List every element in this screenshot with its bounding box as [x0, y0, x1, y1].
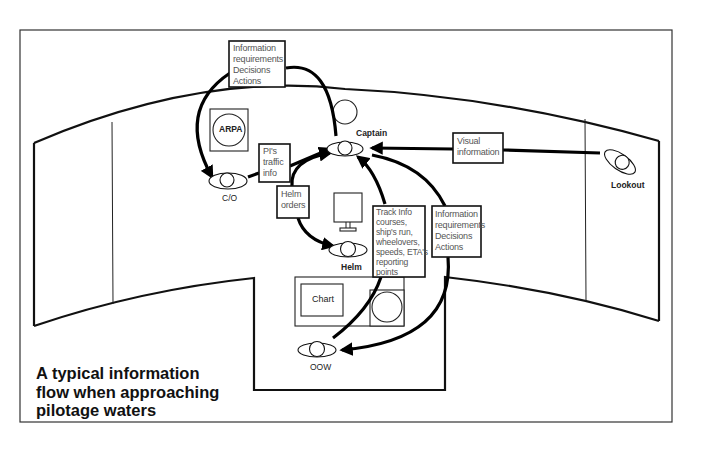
box-line: courses,	[376, 217, 428, 227]
lookout-person-icon	[601, 145, 640, 179]
bridge-outline	[34, 86, 659, 390]
pi-traffic-info-text: PI's traffic info	[263, 146, 283, 179]
co-label: C/O	[222, 193, 237, 203]
box-line: info	[263, 168, 283, 179]
chart-label: Chart	[312, 294, 334, 304]
caption-line: pilotage waters	[36, 401, 219, 420]
box-line: requirements	[435, 220, 485, 231]
box-line: Information	[233, 43, 283, 54]
box-line: traffic	[263, 157, 283, 168]
arpa-label: ARPA	[219, 124, 242, 134]
figure-caption: A typical information flow when approach…	[36, 364, 219, 420]
lookout-label: Lookout	[611, 180, 645, 190]
box-line: Decisions	[233, 65, 283, 76]
track-info-text: Track Info courses, ship's run, wheelove…	[376, 207, 428, 277]
captain-chair	[333, 100, 357, 124]
box-line: Actions	[435, 242, 485, 253]
box-line: Actions	[233, 76, 283, 87]
box-line: Visual	[457, 136, 499, 147]
box-line: Helm	[281, 189, 305, 200]
captain-label: Captain	[356, 128, 387, 138]
box-line: Decisions	[435, 231, 485, 242]
box-line: requirements	[233, 54, 283, 65]
oow-person-icon	[298, 342, 336, 358]
helm-orders-text: Helm orders	[281, 189, 305, 211]
box-line: reporting	[376, 257, 428, 267]
box-line: Information	[435, 209, 485, 220]
box-line: Track Info	[376, 207, 428, 217]
box-line: speeds, ETA's	[376, 247, 428, 257]
info-requirements-top-text: Information requirements Decisions Actio…	[233, 43, 283, 87]
box-line: points	[376, 267, 428, 277]
helm-person-icon	[329, 242, 367, 258]
box-line: PI's	[263, 146, 283, 157]
caption-line: A typical information	[36, 364, 219, 383]
monitor-icon	[334, 193, 362, 231]
co-person-icon	[209, 173, 247, 189]
box-line: ship's run,	[376, 227, 428, 237]
visual-information-text: Visual information	[457, 136, 499, 158]
box-line: information	[457, 147, 499, 158]
box-line: orders	[281, 200, 305, 211]
box-line: wheelovers,	[376, 237, 428, 247]
info-requirements-right-text: Information requirements Decisions Actio…	[435, 209, 485, 253]
caption-line: flow when approaching	[36, 383, 219, 402]
captain-person-icon	[327, 141, 363, 156]
helm-label: Helm	[341, 262, 362, 272]
oow-label: OOW	[310, 362, 331, 372]
